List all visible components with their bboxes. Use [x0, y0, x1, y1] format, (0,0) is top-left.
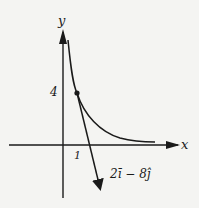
x-axis-label: x [181, 138, 188, 151]
y-axis [59, 29, 67, 198]
diagram-canvas [0, 0, 199, 208]
point-marker [74, 90, 79, 95]
y-tick-label: 4 [50, 86, 58, 98]
y-axis-label: y [58, 14, 65, 27]
tangent-vector-arrow [77, 93, 100, 188]
decay-curve [68, 40, 155, 142]
x-tick-label: 1 [74, 150, 81, 161]
vector-label: 2ī − 8ĵ [110, 168, 151, 180]
